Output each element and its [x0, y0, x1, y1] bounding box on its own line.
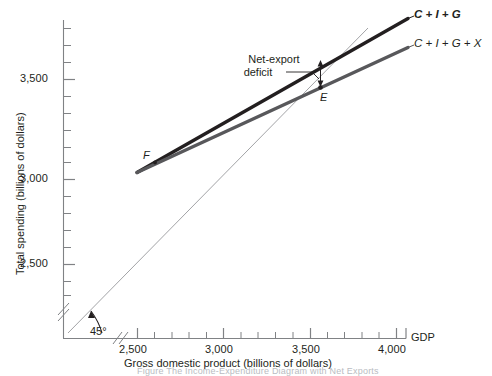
series-line-cig — [137, 19, 408, 173]
x-tick-label-4000: 4,000 — [378, 344, 406, 355]
angle-45-label: 45° — [90, 326, 107, 337]
point-label-e: E — [320, 92, 327, 103]
x-tick-label-3500: 3,500 — [292, 344, 320, 355]
figure-container: 3,500 3,000 2,500 Total spending (billio… — [0, 0, 492, 376]
forty-five-degree-line — [68, 28, 368, 333]
series-label-cig: C + I + G — [414, 9, 461, 21]
annotation-net-export-line2: deficit — [228, 67, 288, 78]
y-tick-label-3500: 3,500 — [20, 73, 48, 84]
x-axis-end-label-gdp: GDP — [411, 332, 435, 343]
x-tick-label-2500: 2,500 — [119, 344, 147, 355]
annotation-net-export-line1: Net-export — [228, 54, 320, 65]
y-axis-ticks — [64, 29, 76, 296]
figure-caption: Figure The Income-Expenditure Diagram wi… — [137, 367, 379, 376]
y-axis-title: Total spending (billions of dollars) — [15, 112, 26, 275]
point-label-f: F — [143, 150, 150, 161]
series-label-cigx: C + I + G + X — [414, 38, 481, 50]
x-tick-label-3000: 3,000 — [205, 344, 233, 355]
point-marker-f — [153, 161, 157, 165]
x-axis-ticks — [138, 328, 407, 339]
